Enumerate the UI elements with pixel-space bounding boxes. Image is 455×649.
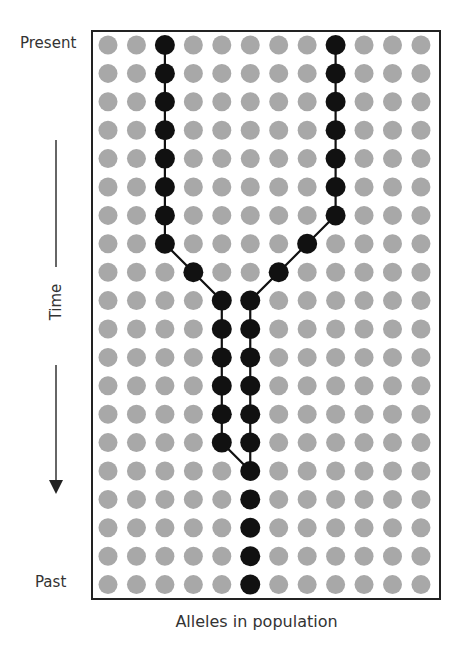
allele-dot [326,433,345,452]
allele-dot [241,234,260,253]
allele-dot [383,206,402,225]
allele-dot [298,64,317,83]
allele-dot [383,518,402,537]
lineage-allele-dot [240,518,260,538]
allele-dot [355,575,374,594]
allele-dot [298,518,317,537]
allele-dot [269,234,288,253]
allele-dot [411,206,430,225]
lineage-allele-dot [240,546,260,566]
allele-dot [411,405,430,424]
allele-dot [212,64,231,83]
allele-dot [184,149,203,168]
allele-dot [355,234,374,253]
allele-dot [241,149,260,168]
allele-dot [184,490,203,509]
allele-dot [269,376,288,395]
allele-dot [241,92,260,111]
allele-dot [355,376,374,395]
allele-dot [269,206,288,225]
allele-dot [326,518,345,537]
allele-dot [212,547,231,566]
allele-dot [212,490,231,509]
allele-dot [298,348,317,367]
allele-dot [355,348,374,367]
allele-dot [411,149,430,168]
allele-dot [355,547,374,566]
allele-dot [99,263,118,282]
lineage-allele-dot [155,149,175,169]
lineage-allele-dot [212,433,232,453]
allele-dot [212,518,231,537]
allele-dot [127,405,146,424]
allele-dot [411,575,430,594]
allele-dot [127,547,146,566]
allele-dot [298,547,317,566]
allele-dot [184,206,203,225]
allele-dot [127,462,146,481]
allele-dot [383,36,402,55]
allele-dot [155,320,174,339]
allele-dot [269,291,288,310]
lineage-allele-dot [155,92,175,112]
allele-dot [383,405,402,424]
lineage-allele-dot [240,575,260,595]
allele-dot [269,547,288,566]
allele-dot [298,405,317,424]
allele-dot [127,575,146,594]
allele-dot [241,36,260,55]
allele-dot [298,121,317,140]
allele-dot [127,291,146,310]
allele-dot [269,36,288,55]
allele-dot [355,462,374,481]
x-axis-label: Alleles in population [0,612,455,631]
allele-dot [184,178,203,197]
allele-dot [269,320,288,339]
allele-dot [155,518,174,537]
allele-dot [99,405,118,424]
allele-dot [411,92,430,111]
allele-dot [127,234,146,253]
lineage-allele-dot [326,35,346,55]
allele-dot [298,320,317,339]
allele-dot [298,291,317,310]
allele-dot [184,320,203,339]
allele-dot [127,206,146,225]
allele-dot [127,36,146,55]
allele-dot [269,149,288,168]
allele-dot [99,92,118,111]
allele-dot [383,178,402,197]
allele-dot [326,462,345,481]
allele-grid [0,0,455,649]
allele-dot [383,575,402,594]
allele-dot [326,234,345,253]
allele-dot [355,405,374,424]
allele-dot [298,490,317,509]
lineage-allele-dot [326,177,346,197]
allele-dot [269,462,288,481]
allele-dot [212,263,231,282]
allele-dot [383,234,402,253]
allele-dot [355,206,374,225]
lineage-allele-dot [240,404,260,424]
allele-dot [212,149,231,168]
allele-dot [212,92,231,111]
allele-dot [383,376,402,395]
allele-dot [99,234,118,253]
lineage-allele-dot [240,347,260,367]
allele-dot [411,320,430,339]
allele-dot [269,64,288,83]
allele-dot [212,462,231,481]
lineage-allele-dot [183,262,203,282]
allele-dot [326,575,345,594]
allele-dot [269,92,288,111]
allele-dot [298,376,317,395]
allele-dot [411,376,430,395]
allele-dot [383,149,402,168]
allele-dot [298,433,317,452]
allele-dot [184,234,203,253]
allele-dot [184,547,203,566]
lineage-allele-dot [155,177,175,197]
allele-dot [99,376,118,395]
allele-dot [155,490,174,509]
